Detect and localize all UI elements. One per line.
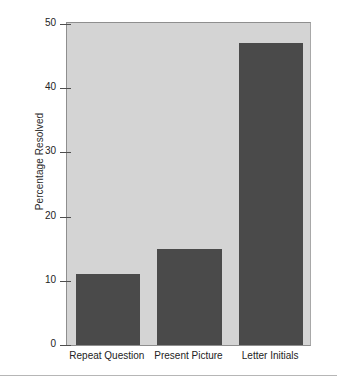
bottom-divider <box>0 375 337 376</box>
y-axis-tick-label: 10 <box>14 275 56 285</box>
x-axis-tick-label: Present Picture <box>148 351 230 361</box>
x-axis-tick-label: Repeat Question <box>66 351 148 361</box>
y-axis-tick-label: 40 <box>14 82 56 92</box>
bar <box>157 249 221 345</box>
plot-area <box>66 22 311 346</box>
bar-chart-figure: Percentage Resolved 01020304050 Repeat Q… <box>0 0 337 383</box>
x-axis-tick-label: Letter Initials <box>229 351 311 361</box>
y-axis-tick-label: 30 <box>14 146 56 156</box>
y-axis-tick <box>60 152 71 153</box>
y-axis-tick-label: 0 <box>14 339 56 349</box>
plot-inner <box>67 23 310 345</box>
y-axis-tick-label: 50 <box>14 18 56 28</box>
bar <box>239 43 303 345</box>
y-axis-tick-labels: 01020304050 <box>9 0 56 383</box>
y-axis-tick <box>60 88 71 89</box>
bar <box>76 274 140 345</box>
y-axis-tick <box>60 345 71 346</box>
y-axis-tick <box>60 281 71 282</box>
y-axis-tick <box>60 217 71 218</box>
y-axis-tick-label: 20 <box>14 211 56 221</box>
y-axis-tick <box>60 24 71 25</box>
